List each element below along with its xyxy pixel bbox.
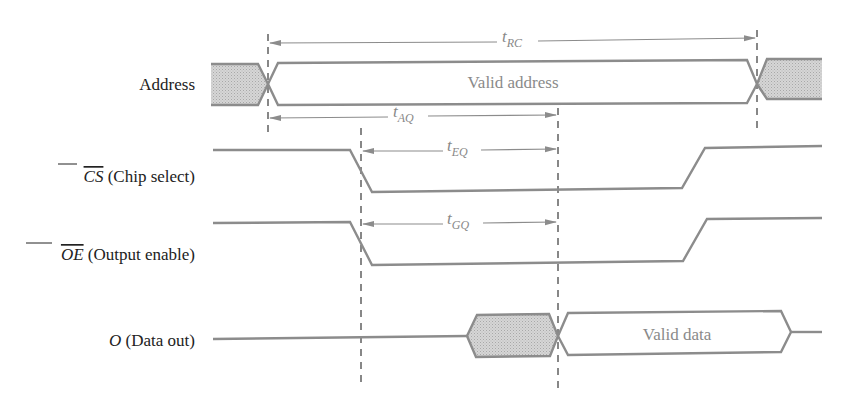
timing-diagram: tRC Address Valid address tAQ CS (Chip s… [0, 0, 847, 403]
signal-label-address: Address [139, 75, 195, 94]
valid-data-text: Valid data [643, 325, 712, 344]
arrow-right-icon [483, 222, 556, 223]
address-waveform: Valid address [211, 59, 822, 105]
signal-label-data-out: O (Data out) [109, 331, 195, 350]
signal-label-oe: OE (Output enable) [61, 245, 195, 264]
t-rc-annotation: tRC [270, 27, 755, 50]
arrow-left-icon [270, 117, 388, 118]
data-invalid-region [467, 314, 558, 357]
data-out-waveform: Valid data [213, 311, 822, 357]
signal-label-cs: CS (Chip select) [84, 167, 195, 186]
data-hi-z-line [213, 336, 467, 339]
arrow-left-icon [270, 42, 497, 43]
t-gq-annotation: tGQ [363, 209, 556, 232]
t-eq-label: tEQ [447, 136, 468, 159]
cs-waveform [213, 146, 822, 192]
address-invalid-right [757, 59, 822, 99]
arrow-right-icon [538, 38, 755, 41]
address-invalid-left [211, 64, 268, 105]
t-gq-label: tGQ [447, 209, 469, 232]
t-eq-annotation: tEQ [363, 136, 556, 159]
t-rc-label: tRC [502, 27, 523, 50]
arrow-right-icon [428, 115, 556, 116]
oe-waveform [213, 218, 822, 265]
arrow-right-icon [481, 149, 556, 150]
valid-address-text: Valid address [467, 73, 558, 92]
